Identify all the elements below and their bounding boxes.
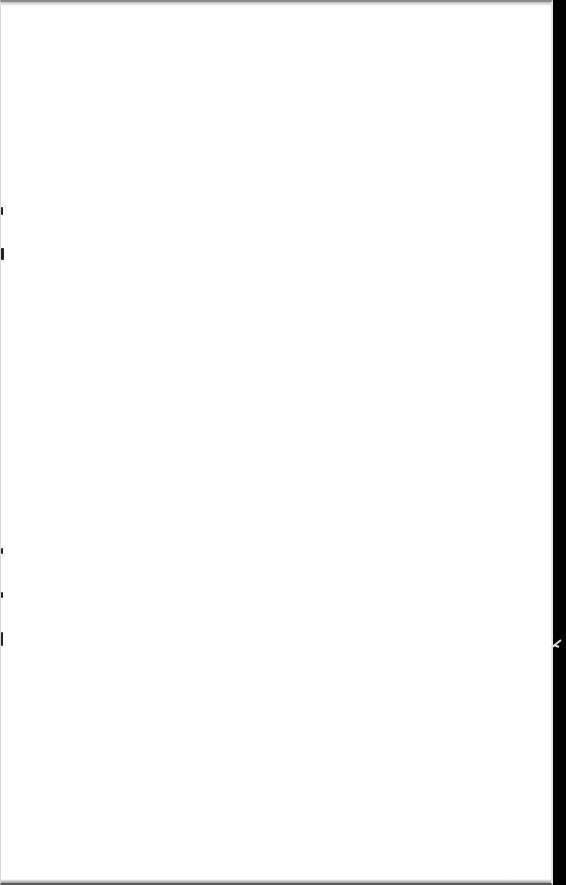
- scan-artifact-icon: [550, 638, 562, 650]
- left-edge-speck: [1, 548, 3, 554]
- page-content: [41, 42, 511, 843]
- left-edge-speck: [1, 632, 3, 646]
- scanner-background-strip: [553, 0, 566, 885]
- top-edge-shadow: [1, 2, 551, 6]
- left-edge-speck: [1, 248, 4, 260]
- blank-page: [0, 0, 553, 885]
- scanned-document: [0, 0, 566, 885]
- left-edge-speck: [1, 207, 3, 215]
- left-edge-speck: [1, 592, 3, 598]
- bottom-edge-shadow: [1, 879, 551, 883]
